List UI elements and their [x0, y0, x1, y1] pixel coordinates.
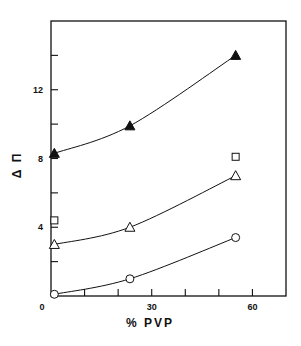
- open-triangle-marker: [231, 171, 241, 180]
- axis-ticks: [51, 55, 252, 296]
- filled-triangle-marker: [125, 121, 135, 130]
- open-triangle-marker: [125, 222, 135, 231]
- filled-triangle-curve: [54, 55, 235, 153]
- tick-labels: 030604812: [33, 85, 257, 312]
- y-tick-label: 12: [33, 85, 43, 95]
- open-triangle-curve: [54, 176, 235, 245]
- y-tick-label: 4: [38, 222, 43, 232]
- open-circle-curve: [54, 238, 235, 295]
- open-square-marker: [51, 217, 58, 224]
- data-markers: [49, 50, 240, 298]
- chart-figure: 030604812 % PVP Δ Π: [0, 0, 301, 346]
- x-tick-label: 0: [39, 302, 44, 312]
- fit-curves: [54, 55, 235, 294]
- x-axis-title: % PVP: [126, 316, 174, 330]
- open-circle-marker: [232, 234, 240, 242]
- y-tick-label: 8: [38, 154, 43, 164]
- open-square-marker: [232, 153, 239, 160]
- plot-frame: [51, 21, 286, 296]
- y-axis-title: Δ Π: [10, 152, 24, 179]
- open-circle-marker: [126, 275, 134, 283]
- open-circle-marker: [50, 290, 58, 298]
- x-tick-label: 30: [147, 302, 157, 312]
- filled-triangle-marker: [231, 50, 241, 59]
- x-tick-label: 60: [247, 302, 257, 312]
- plot-border: [51, 21, 286, 296]
